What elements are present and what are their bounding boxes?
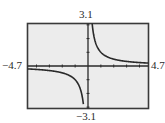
graph-figure: 3.1 −3.1 −4.7 4.7 (0, 0, 165, 123)
graph-screen (0, 0, 165, 123)
